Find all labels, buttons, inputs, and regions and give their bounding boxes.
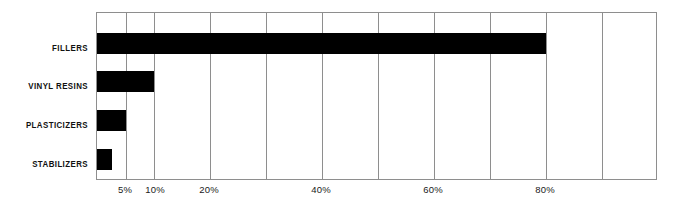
gridline-80 [546,13,547,179]
bar-stabilizers [97,149,112,170]
category-label-plasticizers: PLASTICIZERS [6,120,88,130]
bar-vinyl-resins [97,71,154,92]
category-label-stabilizers: STABILIZERS [6,159,88,169]
tick-label-40: 40% [311,184,331,195]
category-label-fillers: FILLERS [6,43,88,53]
tick-label-80: 80% [535,184,555,195]
bar-fillers [97,33,546,54]
tick-label-5: 5% [118,184,132,195]
category-label-vinyl-resins: VINYL RESINS [6,81,88,91]
gridline-90 [602,13,603,179]
tick-label-20: 20% [199,184,219,195]
category-axis: FILLERS VINYL RESINS PLASTICIZERS STABIL… [0,12,88,180]
plot-area [96,12,657,180]
bar-chart: FILLERS VINYL RESINS PLASTICIZERS STABIL… [0,0,677,220]
tick-label-60: 60% [423,184,443,195]
bar-plasticizers [97,110,126,131]
tick-label-10: 10% [145,184,165,195]
value-axis: 5% 10% 20% 40% 60% 80% [96,184,657,204]
